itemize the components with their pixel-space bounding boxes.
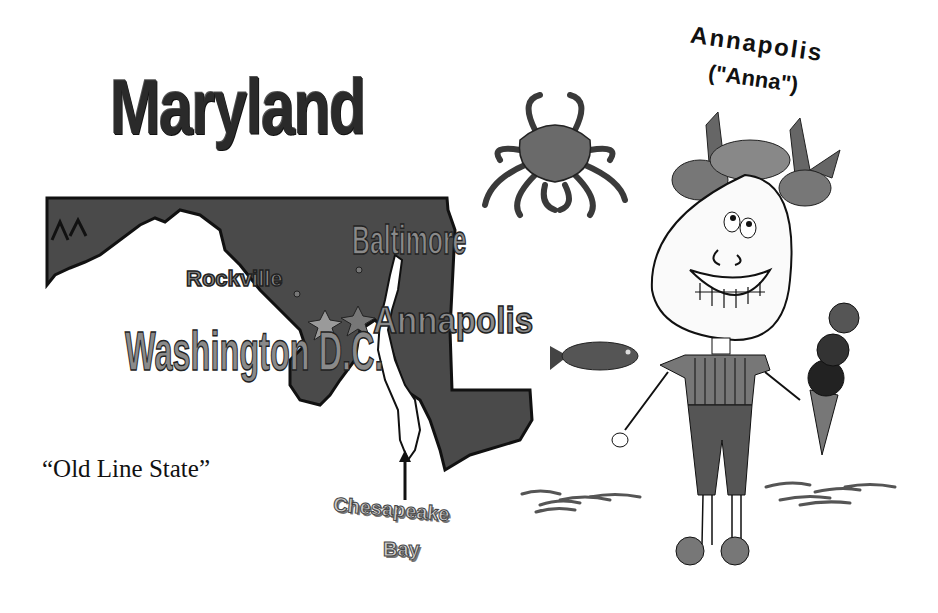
- rockville-dot: [294, 291, 300, 297]
- crab-icon: [485, 95, 625, 215]
- state-nickname: “Old Line State”: [42, 455, 210, 483]
- fish-icon: [550, 342, 638, 370]
- city-label-baltimore: Baltimore: [352, 218, 466, 263]
- city-label-annapolis: Annapolis: [373, 300, 533, 342]
- bay-label-line2: Bay: [383, 538, 420, 561]
- ice-cream-cone: [808, 303, 859, 455]
- city-label-washington-dc: Washington D.C.: [125, 318, 384, 383]
- baltimore-dot: [356, 267, 362, 273]
- city-label-rockville: Rockville: [186, 266, 283, 292]
